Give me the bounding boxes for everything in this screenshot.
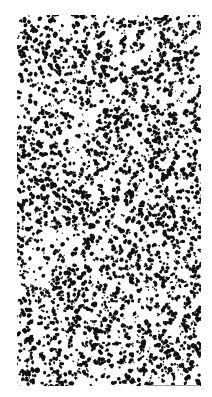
speckle-canvas: [17, 15, 201, 386]
speckle-texture: [17, 15, 201, 386]
bottom-edge-line: [150, 385, 200, 386]
